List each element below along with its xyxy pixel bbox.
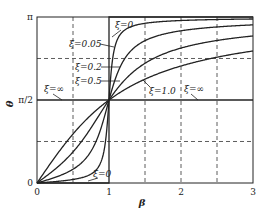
curve-label: ξ=0.2 — [75, 62, 102, 72]
y-tick-label: 0 — [27, 178, 33, 188]
y-axis-label: θ — [4, 100, 15, 107]
y-tick-label: π — [27, 12, 33, 22]
curve-label: ξ=0 — [93, 169, 111, 179]
curve-label: ξ=1.0 — [149, 86, 176, 96]
x-tick-label: 2 — [178, 187, 184, 197]
curve-label: ξ=0.05 — [69, 39, 102, 49]
phase-response-chart: 01230π/2π ξ=0ξ=0.05ξ=0.2ξ=0.5ξ=∞ξ=1.0ξ=∞… — [0, 0, 264, 219]
label-leader — [53, 94, 62, 100]
curve-label: ξ=∞ — [184, 84, 204, 94]
label-leader — [191, 94, 198, 100]
x-tick-label: 0 — [34, 187, 40, 197]
curve-label: ξ=0 — [115, 20, 133, 30]
x-tick-label: 3 — [250, 187, 256, 197]
y-tick-label: π/2 — [18, 95, 33, 105]
label-leader — [100, 44, 114, 47]
curve-label: ξ=0.5 — [75, 76, 102, 86]
x-tick-label: 1 — [106, 187, 112, 197]
curve-label: ξ=∞ — [44, 84, 64, 94]
x-axis-label: β — [138, 197, 146, 208]
